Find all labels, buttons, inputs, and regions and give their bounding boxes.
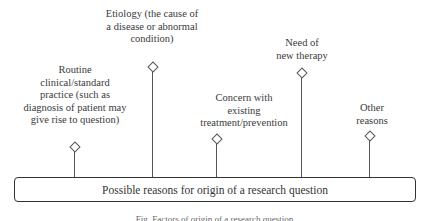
reason-other-label: Other reasons xyxy=(342,102,402,127)
label-line: Concern with xyxy=(184,92,304,105)
central-topic-box: Possible reasons for origin of a researc… xyxy=(14,177,416,202)
connector-line xyxy=(74,152,75,177)
reason-therapy-label: Need of new therapy xyxy=(262,37,342,62)
label-line: diagnosis of patient may xyxy=(22,102,128,115)
reason-concern-label: Concern with existing treatment/preventi… xyxy=(184,92,304,130)
label-line: give rise to question) xyxy=(22,114,128,127)
label-line: treatment/prevention xyxy=(184,117,304,130)
reason-etiology-label: Etiology (the cause of a disease or abno… xyxy=(92,8,212,46)
label-line: a disease or abnormal xyxy=(92,21,212,34)
label-line: condition) xyxy=(92,33,212,46)
connector-line xyxy=(152,72,153,177)
label-line: Other xyxy=(342,102,402,115)
connector-line xyxy=(216,144,217,177)
figure-caption: Fig. Factors of origin of a research que… xyxy=(0,214,429,221)
label-line: existing xyxy=(184,105,304,118)
diamond-connector-icon xyxy=(296,67,307,78)
connector-line xyxy=(301,78,302,177)
diamond-connector-icon xyxy=(364,130,375,141)
central-topic-text: Possible reasons for origin of a researc… xyxy=(102,184,328,196)
label-line: Etiology (the cause of xyxy=(92,8,212,21)
label-line: practice (such as xyxy=(22,89,128,102)
diamond-connector-icon xyxy=(147,61,158,72)
connector-line xyxy=(369,141,370,177)
label-line: Need of xyxy=(262,37,342,50)
label-line: new therapy xyxy=(262,50,342,63)
label-line: reasons xyxy=(342,115,402,128)
reason-routine-label: Routine clinical/standard practice (such… xyxy=(22,64,128,127)
label-line: Routine xyxy=(22,64,128,77)
label-line: clinical/standard xyxy=(22,77,128,90)
diamond-connector-icon xyxy=(211,133,222,144)
diamond-connector-icon xyxy=(69,141,80,152)
